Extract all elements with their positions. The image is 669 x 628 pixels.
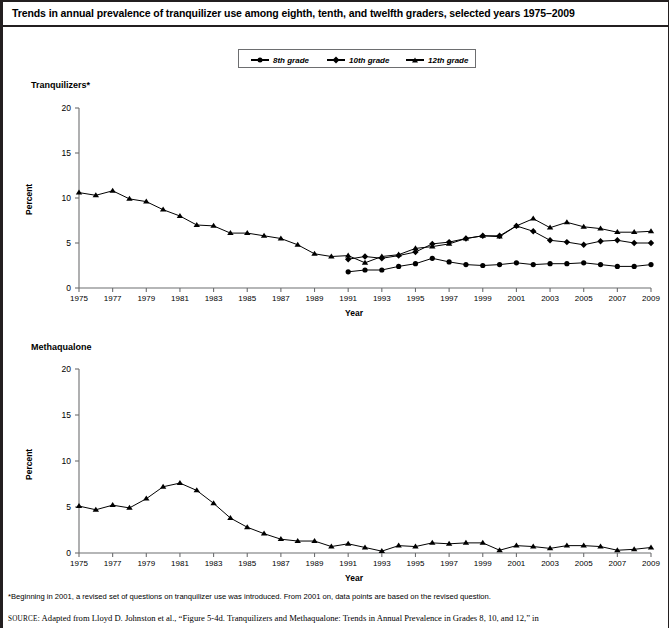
x-tick-label: 1985 <box>232 559 262 568</box>
x-tick-label: 1983 <box>199 559 229 568</box>
x-tick-label: 2003 <box>535 294 565 303</box>
x-axis-label-tranquilizers: Year <box>345 308 363 318</box>
x-tick-label: 2001 <box>501 294 531 303</box>
panel-title-methaqualone: Methaqualone <box>31 342 92 352</box>
x-tick-label: 2005 <box>569 294 599 303</box>
plot-area-methaqualone <box>0 330 669 592</box>
plot-area-tranquilizers <box>0 0 669 330</box>
x-tick-label: 1999 <box>468 294 498 303</box>
y-tick-label: 15 <box>55 148 71 158</box>
y-tick-label: 5 <box>55 502 71 512</box>
x-tick-label: 2001 <box>501 559 531 568</box>
y-tick-label: 15 <box>55 410 71 420</box>
x-tick-label: 1993 <box>367 294 397 303</box>
figure-source: SOURCE: Adapted from Lloyd D. Johnston e… <box>8 612 663 625</box>
y-tick-label: 0 <box>55 283 71 293</box>
y-tick-label: 20 <box>55 103 71 113</box>
y-tick-label: 10 <box>55 193 71 203</box>
chart-panel-methaqualone: Methaqualone Percent Year 05101520197519… <box>0 330 669 592</box>
x-tick-label: 1977 <box>98 559 128 568</box>
figure-footnote: *Beginning in 2001, a revised set of que… <box>8 592 658 602</box>
x-tick-label: 1989 <box>300 559 330 568</box>
y-axis-label-methaqualone: Percent <box>24 449 34 480</box>
source-prefix: SOURCE <box>8 615 38 623</box>
x-tick-label: 1981 <box>165 559 195 568</box>
x-axis-label-methaqualone: Year <box>345 573 363 583</box>
x-tick-label: 1991 <box>333 294 363 303</box>
x-tick-label: 1975 <box>64 559 94 568</box>
x-tick-label: 1989 <box>300 294 330 303</box>
y-axis-label-tranquilizers: Percent <box>24 184 34 215</box>
x-tick-label: 1991 <box>333 559 363 568</box>
x-tick-label: 1975 <box>64 294 94 303</box>
x-tick-label: 1995 <box>400 294 430 303</box>
x-tick-label: 2009 <box>636 559 666 568</box>
x-tick-label: 2009 <box>636 294 666 303</box>
x-tick-label: 1983 <box>199 294 229 303</box>
chart-panel-tranquilizers: Tranquilizers* Percent Year 051015201975… <box>0 0 669 330</box>
x-tick-label: 1977 <box>98 294 128 303</box>
x-tick-label: 1987 <box>266 559 296 568</box>
x-tick-label: 1995 <box>400 559 430 568</box>
x-tick-label: 1999 <box>468 559 498 568</box>
y-tick-label: 20 <box>55 364 71 374</box>
x-tick-label: 1979 <box>131 294 161 303</box>
y-tick-label: 10 <box>55 456 71 466</box>
x-tick-label: 1979 <box>131 559 161 568</box>
x-tick-label: 1997 <box>434 294 464 303</box>
y-tick-label: 5 <box>55 238 71 248</box>
x-tick-label: 2007 <box>602 294 632 303</box>
x-tick-label: 1981 <box>165 294 195 303</box>
x-tick-label: 1987 <box>266 294 296 303</box>
x-tick-label: 2007 <box>602 559 632 568</box>
x-tick-label: 1993 <box>367 559 397 568</box>
x-tick-label: 2003 <box>535 559 565 568</box>
x-tick-label: 1985 <box>232 294 262 303</box>
panel-title-tranquilizers: Tranquilizers* <box>31 80 90 90</box>
x-tick-label: 1997 <box>434 559 464 568</box>
source-text: : Adapted from Lloyd D. Johnston et al.,… <box>38 613 539 623</box>
y-tick-label: 0 <box>55 548 71 558</box>
x-tick-label: 2005 <box>569 559 599 568</box>
